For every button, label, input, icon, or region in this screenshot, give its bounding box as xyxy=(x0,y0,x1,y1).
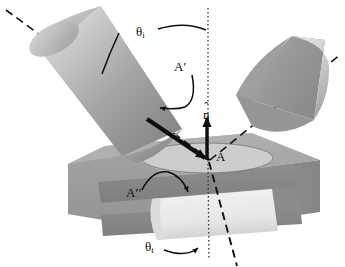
theta-t-label: θt xyxy=(145,240,154,255)
optics-ray-diagram: θi A′ ˆ n A A′′ θt xyxy=(0,0,345,267)
a-double-prime-marks: ′′ xyxy=(135,185,142,200)
n-hat-label: ˆ n xyxy=(203,108,210,121)
area-a-text: A xyxy=(216,149,225,164)
theta-t-leader xyxy=(164,248,198,254)
a-prime-label: A′ xyxy=(174,60,187,73)
area-a-label: A xyxy=(216,150,225,163)
theta-t-subscript: t xyxy=(151,245,154,255)
hat-accent-icon: ˆ xyxy=(204,101,208,113)
theta-i-label: θi xyxy=(136,25,145,40)
a-double-prime-label: A′′ xyxy=(126,186,142,199)
theta-i-subscript: i xyxy=(142,30,145,40)
a-prime-text: A xyxy=(174,59,183,74)
reflected-beam xyxy=(236,36,329,132)
diagram-canvas xyxy=(0,0,345,267)
theta-i-leader xyxy=(158,25,206,30)
a-prime-marks: ′ xyxy=(183,59,186,74)
a-double-prime-text: A xyxy=(126,185,135,200)
